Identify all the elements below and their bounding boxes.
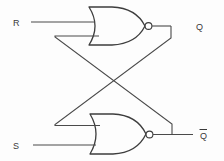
nor-gate-top-bubble-icon [145, 23, 152, 30]
nor-gate-bottom [90, 114, 153, 154]
label-output-q-not-group: Q [200, 130, 208, 142]
sr-latch-schematic: R S Q Q [0, 0, 224, 161]
label-input-r: R [13, 18, 20, 28]
nor-gate-bottom-body [90, 114, 146, 154]
nor-gate-top [89, 7, 152, 45]
label-output-q-not: Q [200, 131, 207, 141]
logic-diagram-canvas: R S Q Q [0, 0, 224, 161]
nor-gate-bottom-bubble-icon [146, 131, 153, 138]
nor-gate-top-body [89, 7, 145, 45]
label-output-q: Q [196, 22, 203, 32]
label-input-s: S [13, 141, 19, 151]
